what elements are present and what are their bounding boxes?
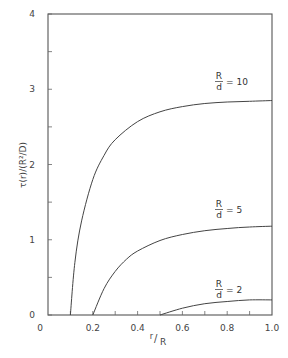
plot-border: [48, 14, 272, 315]
x-tick-label: 0.4: [130, 323, 145, 333]
svg-text:d: d: [216, 290, 222, 300]
svg-text:d: d: [216, 82, 222, 92]
curve-label: Rd= 5: [215, 199, 242, 220]
curve-line: [93, 226, 272, 315]
x-tick-label: 0.6: [175, 323, 190, 333]
svg-text:= 2: = 2: [226, 285, 242, 295]
svg-text:d: d: [216, 210, 222, 220]
curve-label: Rd= 10: [215, 71, 248, 92]
chart: 0123400.20.40.60.81.0 Rd= 10Rd= 5Rd= 2 τ…: [0, 0, 288, 358]
plot-frame: [48, 14, 272, 315]
svg-text:R: R: [216, 71, 222, 81]
svg-text:/: /: [154, 333, 158, 344]
x-tick-label: 0: [37, 323, 43, 333]
svg-text:= 5: = 5: [226, 205, 242, 215]
curve-labels: Rd= 10Rd= 5Rd= 2: [215, 71, 248, 300]
y-tick-label: 0: [29, 310, 35, 320]
y-tick-label: 3: [29, 84, 35, 94]
y-tick-label: 1: [29, 235, 35, 245]
y-tick-label: 2: [29, 160, 35, 170]
svg-text:R: R: [216, 199, 222, 209]
x-tick-label: 0.2: [86, 323, 100, 333]
y-axis-label: τ(r)/(R²/D): [18, 142, 28, 188]
svg-text:= 10: = 10: [226, 77, 248, 87]
y-tick-label: 4: [29, 9, 35, 19]
x-tick-label: 0.8: [220, 323, 235, 333]
svg-text:R: R: [160, 337, 166, 347]
x-axis-label: r / R: [150, 332, 167, 347]
curve-line: [160, 300, 272, 315]
curve-label: Rd= 2: [215, 279, 242, 300]
svg-text:R: R: [216, 279, 222, 289]
x-tick-label: 1.0: [265, 323, 280, 333]
